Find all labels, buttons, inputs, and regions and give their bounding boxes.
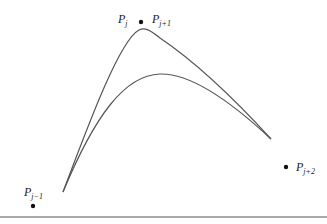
label-pj-minus-1: Pj−1 — [23, 185, 43, 201]
upper-curve — [63, 29, 271, 192]
label-pj-plus-1: Pj+1 — [151, 12, 171, 28]
label-pj: Pj — [117, 12, 128, 28]
control-point-pj — [139, 20, 143, 24]
control-point-pj-plus-2 — [284, 165, 288, 169]
lower-curve — [63, 74, 271, 192]
label-pj-plus-2: Pj+2 — [295, 160, 315, 176]
control-point-pj-minus-1 — [31, 204, 35, 208]
spline-diagram: Pj−1 Pj Pj+1 Pj+2 — [0, 0, 327, 224]
